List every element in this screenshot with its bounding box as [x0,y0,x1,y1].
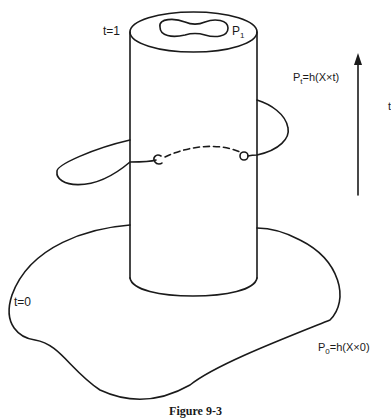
base-region-p0 [9,225,340,399]
label-p1: P1 [232,25,244,40]
figure-caption: Figure 9-3 [0,404,391,419]
label-t-equals-1: t=1 [103,25,120,37]
right-loop [248,100,288,156]
hidden-path-dashed [165,146,240,157]
homotopy-diagram [0,0,391,419]
label-pt-formula: Pt=h(X×t) [293,72,339,86]
label-t-equals-0: t=0 [14,296,31,308]
cylinder-bottom-arc [130,278,257,296]
p1-region [160,19,228,36]
t-axis-arrowhead [354,53,362,65]
left-loop [57,140,156,185]
label-p0-formula: P0=h(X×0) [318,342,370,356]
path-endpoint-circle [240,152,248,160]
